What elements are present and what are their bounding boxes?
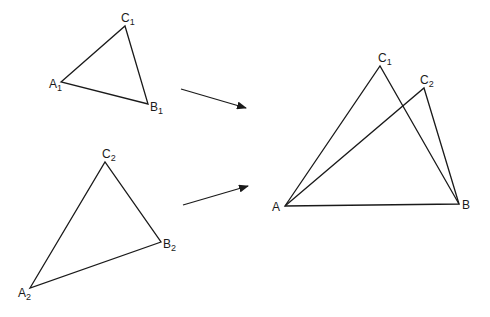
label-b: B [462, 199, 470, 211]
label-combined-c2: C2 [420, 74, 434, 89]
triangle-congruence-diagram: A1 B1 C1 A2 B2 C2 A B C1 C2 [0, 0, 490, 317]
arrow-1 [181, 89, 246, 108]
label-c1: C1 [121, 12, 135, 27]
label-b1: B1 [150, 101, 163, 116]
triangle-1 [61, 26, 148, 104]
label-combined-c1: C1 [378, 52, 392, 67]
label-a2: A2 [18, 287, 31, 302]
label-b2: B2 [163, 238, 176, 253]
triangle-2 [30, 162, 161, 288]
diagram-svg [0, 0, 490, 317]
label-c2: C2 [102, 148, 116, 163]
label-a: A [272, 201, 280, 213]
combined-triangle-abc2 [285, 88, 459, 206]
label-a1: A1 [49, 78, 62, 93]
arrow-2 [183, 186, 248, 205]
